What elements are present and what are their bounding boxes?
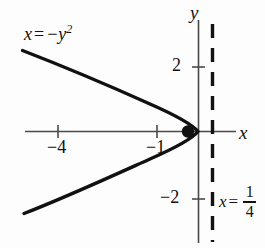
dashed-line-equation-label: x= 1 4 — [219, 184, 256, 220]
curve-eq-lhs: x — [24, 24, 32, 44]
x-axis-label: x — [239, 123, 247, 142]
fraction-denominator: 4 — [244, 203, 256, 220]
x-tick-label-neg4: −4 — [47, 138, 66, 156]
curve-eq-rhs-base: −y — [46, 24, 66, 44]
dashed-eq-lhs: x — [219, 193, 227, 210]
curve-eq-exponent: 2 — [66, 22, 72, 36]
focus-dot — [182, 125, 194, 137]
curve-equation-label: x=−y2 — [24, 23, 72, 43]
parabola-figure: x y −4 −1 2 −2 x=−y2 x= 1 4 — [0, 0, 265, 248]
y-tick-label-neg2: −2 — [160, 188, 179, 206]
y-tick-label-2: 2 — [172, 56, 181, 74]
fraction-one-fourth: 1 4 — [243, 184, 256, 220]
fraction-numerator: 1 — [244, 184, 256, 201]
curve-eq-operator: = — [34, 24, 44, 44]
dashed-eq-operator: = — [229, 193, 239, 210]
x-tick-label-neg1: −1 — [146, 138, 165, 156]
y-axis-label: y — [190, 3, 198, 22]
